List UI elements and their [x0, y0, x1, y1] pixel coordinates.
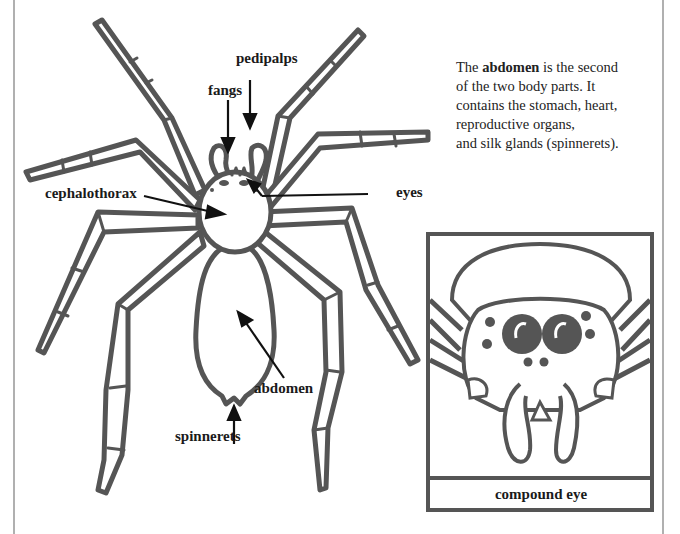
desc-text: is the second	[539, 59, 618, 75]
leg-left-1	[95, 20, 205, 195]
desc-bold-term: abdomen	[482, 59, 539, 75]
desc-text: and silk glands (spinnerets).	[456, 135, 619, 151]
label-spinnerets: spinnerets	[175, 428, 241, 445]
label-abdomen: abdomen	[254, 380, 313, 397]
label-fangs: fangs	[208, 82, 242, 99]
label-pedipalps: pedipalps	[236, 50, 298, 67]
inset-caption: compound eye	[430, 480, 652, 508]
desc-text: contains the stomach, heart,	[456, 97, 617, 113]
label-eyes: eyes	[396, 184, 423, 201]
desc-text: The	[456, 59, 482, 75]
leg-left-4	[98, 232, 204, 493]
abdomen-description: The abdomen is the second of the two bod…	[456, 58, 656, 153]
desc-text: of the two body parts. It	[456, 78, 595, 94]
label-cephalothorax: cephalothorax	[45, 185, 137, 202]
inset-compound-eye	[428, 234, 652, 510]
desc-text: reproductive organs,	[456, 116, 575, 132]
